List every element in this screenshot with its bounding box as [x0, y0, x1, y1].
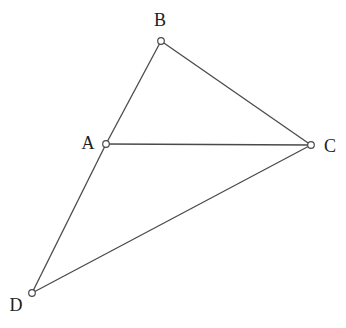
point-C	[308, 142, 315, 149]
segment-BC	[161, 41, 311, 145]
segment-DC	[32, 145, 311, 293]
segment-AC	[106, 144, 311, 145]
label-D: D	[10, 296, 23, 314]
geometry-diagram: B A C D	[0, 0, 346, 328]
label-B: B	[154, 11, 166, 29]
segment-BA	[106, 41, 161, 144]
segment-AD	[32, 144, 106, 293]
point-A	[103, 141, 110, 148]
label-C: C	[324, 137, 336, 155]
point-B	[158, 38, 165, 45]
diagram-svg	[0, 0, 346, 328]
point-D	[29, 290, 36, 297]
label-A: A	[82, 134, 95, 152]
